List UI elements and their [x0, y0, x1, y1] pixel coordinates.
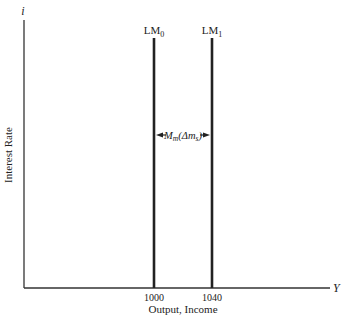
- x-axis-label: Output, Income: [148, 303, 217, 315]
- left-arrowhead-icon: [156, 133, 163, 138]
- x-axis-symbol: Y: [333, 281, 341, 295]
- x-tick-1000: 1000: [144, 292, 164, 303]
- x-tick-1040: 1040: [202, 292, 222, 303]
- lm1-label: LM1: [202, 24, 223, 39]
- lm0-label: LM0: [144, 24, 165, 39]
- y-axis-label: Interest Rate: [2, 127, 14, 183]
- lm-shift-diagram: i Y Interest Rate Output, Income LM0 LM1…: [0, 0, 344, 319]
- shift-annotation: Mm(Δms): [163, 130, 202, 143]
- right-arrowhead-icon: [203, 133, 210, 138]
- y-axis-symbol: i: [21, 4, 24, 18]
